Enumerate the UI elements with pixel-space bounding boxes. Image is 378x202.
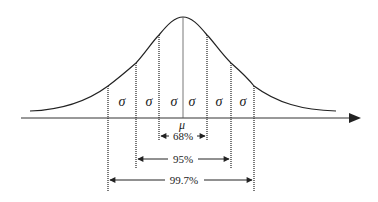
diagram-canvas: σ σ σ σ σ σ μ 68% 95% 99.7% bbox=[0, 0, 378, 202]
interval-label-95: 95% bbox=[173, 153, 193, 165]
sigma-boundaries bbox=[108, 35, 254, 192]
interval-99-7: 99.7% bbox=[110, 174, 252, 186]
sigma-label: σ bbox=[171, 94, 179, 109]
sigma-label: σ bbox=[216, 94, 224, 109]
interval-label-68: 68% bbox=[173, 130, 193, 142]
interval-95: 95% bbox=[138, 153, 229, 165]
interval-68: 68% bbox=[161, 130, 205, 142]
sigma-label: σ bbox=[146, 94, 154, 109]
sigma-label: σ bbox=[119, 94, 127, 109]
sigma-label: σ bbox=[189, 94, 197, 109]
axis-arrow-icon bbox=[349, 113, 361, 123]
sigma-label: σ bbox=[240, 94, 248, 109]
interval-label-99-7: 99.7% bbox=[170, 174, 198, 186]
normal-distribution-diagram: σ σ σ σ σ σ μ 68% 95% 99.7% bbox=[0, 0, 378, 202]
